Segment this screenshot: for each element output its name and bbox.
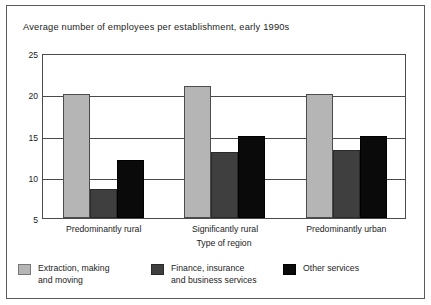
legend-item: Finance, insurance and business services (151, 263, 256, 286)
bar-group: Predominantly urban (286, 55, 407, 218)
chart-title: Average number of employees per establis… (23, 22, 289, 32)
bar (360, 136, 387, 219)
x-axis-tick-label: Predominantly urban (306, 224, 386, 234)
x-axis-tick-label: Significantly rural (192, 224, 258, 234)
y-axis-tick-label: 20 (28, 91, 38, 101)
legend-item: Other services (283, 263, 359, 275)
legend-swatch (283, 264, 296, 275)
legend-item: Extraction, making and moving (18, 263, 109, 286)
legend-swatch (18, 264, 31, 275)
y-axis-tick-label: 25 (28, 50, 38, 60)
x-axis-tick-label: Predominantly rural (66, 224, 141, 234)
bar (306, 94, 333, 218)
bar (90, 189, 117, 218)
bar (211, 152, 238, 218)
x-axis-title: Type of region (42, 238, 406, 248)
legend-label: Finance, insurance and business services (171, 263, 256, 286)
y-axis-tick-label: 5 (33, 215, 38, 225)
y-axis-tick-label: 15 (28, 133, 38, 143)
y-axis-tick-label: 10 (28, 174, 38, 184)
plot-area: 510152025Predominantly ruralSignificantl… (42, 54, 406, 219)
bar (238, 136, 265, 219)
bar-group: Significantly rural (164, 55, 285, 218)
bar (117, 160, 144, 218)
bar (333, 150, 360, 218)
bar-group: Predominantly rural (43, 55, 164, 218)
plot-inner: 510152025Predominantly ruralSignificantl… (43, 55, 405, 218)
chart-legend: Extraction, making and movingFinance, in… (18, 263, 408, 293)
legend-label: Extraction, making and moving (38, 263, 109, 286)
legend-swatch (151, 264, 164, 275)
legend-label: Other services (303, 263, 359, 275)
figure-container: Average number of employees per establis… (0, 0, 431, 305)
bar (184, 86, 211, 218)
bar (63, 94, 90, 218)
